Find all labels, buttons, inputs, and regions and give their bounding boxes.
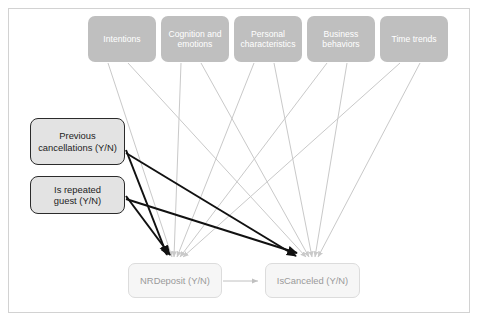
node-previous-cancellations-label: Previous cancellations (Y/N): [38, 130, 117, 152]
node-is-repeated-guest[interactable]: Is repeated guest (Y/N): [30, 176, 125, 214]
gray-edges-to-iscanceled: [128, 63, 420, 257]
edge-business-iscanceled: [315, 63, 347, 257]
node-nrdeposit-label: NRDeposit (Y/N): [140, 275, 210, 286]
node-time-trends[interactable]: Time trends: [380, 16, 448, 62]
edge-cognition-nrdeposit: [174, 63, 181, 257]
node-business-behaviors[interactable]: Business behaviors: [307, 16, 375, 62]
node-cognition-and-emotions-label: Cognition and emotions: [168, 29, 221, 49]
node-is-repeated-guest-label: Is repeated guest (Y/N): [54, 184, 101, 206]
node-personal-characteristics[interactable]: Personal characteristics: [234, 16, 302, 62]
edge-prevcancel-iscanceled: [126, 153, 296, 256]
node-iscanceled[interactable]: IsCanceled (Y/N): [265, 263, 360, 298]
diagram-canvas: Intentions Cognition and emotions Person…: [0, 0, 479, 324]
node-personal-characteristics-label: Personal characteristics: [241, 29, 296, 49]
gray-edges-to-nrdeposit: [108, 63, 400, 257]
node-time-trends-label: Time trends: [391, 34, 436, 44]
edge-repeatguest-iscanceled: [126, 199, 297, 253]
node-intentions-label: Intentions: [103, 34, 140, 44]
node-nrdeposit[interactable]: NRDeposit (Y/N): [128, 263, 222, 298]
node-iscanceled-label: IsCanceled (Y/N): [277, 275, 348, 286]
node-previous-cancellations[interactable]: Previous cancellations (Y/N): [30, 118, 125, 165]
node-business-behaviors-label: Business behaviors: [322, 29, 359, 49]
node-cognition-and-emotions[interactable]: Cognition and emotions: [161, 16, 229, 62]
node-intentions[interactable]: Intentions: [88, 16, 156, 62]
edge-business-nrdeposit: [180, 63, 327, 257]
dark-edges: [126, 150, 297, 256]
edge-time-iscanceled: [318, 63, 420, 257]
